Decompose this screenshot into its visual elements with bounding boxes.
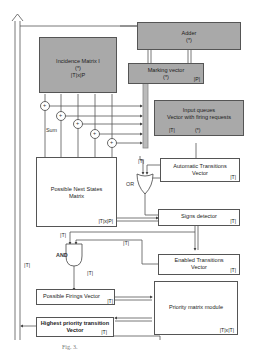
- marking-vector-title: Marking vector: [129, 67, 203, 74]
- input-queues-block: Input queues Vector with firing requests…: [154, 100, 244, 136]
- sum-node-1: +: [43, 102, 46, 108]
- automatic-transitions-title2: Vector: [161, 170, 239, 177]
- signs-detector-block: Signs detector |T|: [158, 209, 240, 226]
- sum-node-2: +: [59, 112, 62, 118]
- incidence-matrix-sub: (*): [40, 65, 116, 72]
- incidence-matrix-dim: |T|x|P: [40, 72, 116, 79]
- wire-label-t5: |T|: [87, 270, 93, 276]
- possible-next-states-block: Possible Next States Matrix |T|x|P|: [36, 157, 117, 227]
- wire-label-t4: |T|: [24, 262, 30, 268]
- priority-matrix-block: Priority matrix module |T|x|T|: [154, 281, 238, 335]
- sum-label: Sum: [46, 127, 57, 133]
- highest-priority-title: Highest priority transition: [37, 320, 113, 327]
- highest-priority-block: Highest priority transition Vector |T|: [36, 317, 114, 337]
- sum-node-5: +: [110, 139, 113, 145]
- enabled-transitions-block: Enabled Transitions Vector |T|: [158, 254, 240, 275]
- incidence-matrix-title: Incidence Matrix I: [40, 58, 116, 65]
- wire-label-t1: |T|: [138, 158, 144, 164]
- sum-node-3: +: [76, 120, 79, 126]
- sum-node-4: +: [93, 130, 96, 136]
- automatic-transitions-block: Automatic Transitions Vector |T|: [160, 158, 240, 182]
- figure-caption: Fig. 3.: [62, 344, 78, 350]
- input-queues-title2: Vector with firing requests: [155, 114, 243, 121]
- possible-next-states-dim: |T|x|P|: [98, 218, 113, 225]
- enabled-transitions-title: Enabled Transitions: [159, 257, 239, 264]
- highest-priority-dim: |T|: [101, 329, 107, 336]
- priority-matrix-dim: |T|x|T|: [220, 327, 234, 334]
- possible-firings-block: Possible Firings Vector |T|: [36, 289, 115, 305]
- wire-label-t3: |T|: [123, 240, 129, 246]
- adder-block: Adder (*): [137, 22, 241, 50]
- automatic-transitions-dim: |T|: [230, 174, 236, 181]
- enabled-transitions-title2: Vector: [159, 264, 239, 271]
- marking-vector-block: Marking vector (*) |P|: [128, 63, 204, 84]
- input-queues-dim: |T|: [169, 127, 175, 134]
- signs-detector-dim: |T|: [230, 218, 236, 225]
- and-gate-label: AND: [56, 252, 68, 258]
- wire-label-t2: |T|: [60, 232, 66, 238]
- adder-sub: (*): [138, 37, 240, 44]
- enabled-transitions-dim: |T|: [230, 267, 236, 274]
- or-gate-label: OR: [126, 181, 134, 187]
- possible-next-states-title2: Matrix: [37, 193, 116, 200]
- possible-firings-title: Possible Firings Vector: [43, 293, 114, 300]
- priority-matrix-title: Priority matrix module: [155, 304, 237, 311]
- possible-firings-dim: |T|: [107, 298, 113, 305]
- input-queues-title: Input queues: [155, 107, 243, 114]
- signs-detector-title: Signs detector: [159, 213, 239, 220]
- input-queues-sub: (*): [195, 127, 200, 134]
- incidence-matrix-block: Incidence Matrix I (*) |T|x|P: [39, 37, 117, 93]
- automatic-transitions-title: Automatic Transitions: [161, 163, 239, 170]
- adder-title: Adder: [138, 30, 240, 37]
- marking-vector-sub: (*): [129, 74, 203, 81]
- marking-vector-dim: |P|: [194, 76, 200, 83]
- possible-next-states-title: Possible Next States: [37, 186, 116, 193]
